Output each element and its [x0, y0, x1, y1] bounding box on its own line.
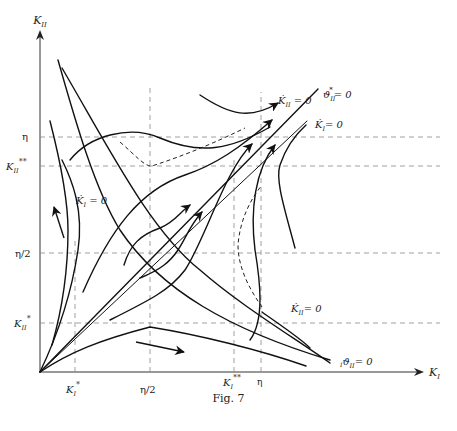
tick-eta-half-y: η/2 [15, 248, 31, 259]
traj-1 [83, 120, 272, 292]
tick-labels: KI* η/2 KI** η η KII** η/2 KII* [5, 131, 262, 398]
arrow-up-left-icon [54, 207, 64, 238]
arrow-right-bottom-icon [136, 342, 184, 352]
curve-theta2-zero [62, 68, 330, 363]
tick-k2-starstar: KII** [5, 157, 27, 175]
curve-labels: K̇II = 0 ϑII*= 0 K̇I= 0 K̇I = 0 K̇II= 0 … [75, 86, 373, 370]
tick-k1-starstar: KI** [222, 373, 241, 391]
reference-lines [40, 85, 440, 372]
curve-k2dot-zero [262, 312, 310, 348]
x-axis-label: KI [428, 366, 440, 381]
label-k2dot-bottom: K̇II= 0 [290, 303, 322, 317]
tick-eta-y: η [22, 131, 28, 142]
label-k1dot-left: K̇I = 0 [75, 195, 108, 209]
curve-left-outer [50, 121, 68, 345]
label-k2dot-top: K̇II = 0 [277, 95, 312, 109]
traj-4 [110, 144, 252, 320]
dashed-right-curve [238, 185, 262, 307]
y-axis-label: KII [32, 14, 47, 29]
curve-top-right [200, 95, 278, 113]
traj-2 [124, 205, 190, 265]
label-theta2-bottom: IϑII= 0 [339, 356, 373, 370]
dashed-upper-curve [120, 128, 245, 166]
curve-upper-hump [70, 127, 270, 160]
ray-theta2star [40, 89, 318, 372]
label-theta2star: ϑII*= 0 [323, 86, 352, 103]
tick-k2-star: KII* [13, 314, 31, 332]
phase-diagram: KII KI KI* η/2 KI** η η KII** η/2 KII* [0, 0, 457, 431]
tick-eta-x: η [257, 377, 262, 387]
label-k1dot-right: K̇I= 0 [314, 119, 344, 133]
figure-caption: Fig. 7 [0, 392, 457, 405]
